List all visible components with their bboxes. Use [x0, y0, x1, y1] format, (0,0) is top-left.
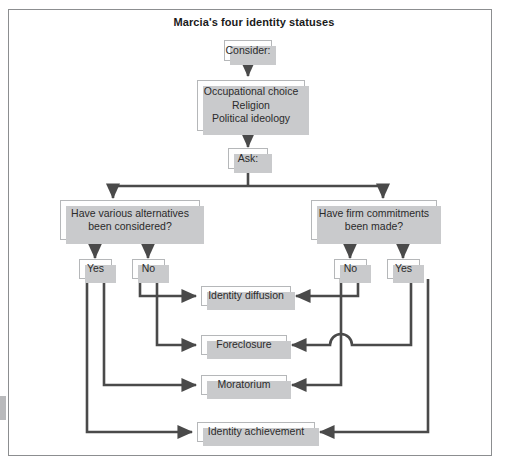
figure-title: Marcia's four identity statuses [0, 16, 508, 28]
node-commitment-no: No [334, 259, 367, 279]
node-outcome-identity-diffusion: Identity diffusion [201, 286, 291, 306]
node-exploration-yes: Yes [79, 259, 112, 279]
node-question-commitment: Have firm commitments been made? [311, 200, 437, 240]
node-ask: Ask: [228, 148, 268, 169]
node-domains: Occupational choice Religion Political i… [197, 80, 305, 131]
node-question-exploration: Have various alternatives been considere… [60, 200, 200, 240]
node-outcome-moratorium-label: Moratorium [212, 378, 275, 392]
scan-edge-artifact [0, 396, 6, 420]
node-exploration-yes-label: Yes [82, 262, 109, 276]
node-commitment-yes: Yes [387, 259, 420, 279]
node-commitment-yes-label: Yes [390, 262, 417, 276]
node-consider-label: Consider: [221, 44, 276, 58]
node-exploration-no-label: No [137, 262, 160, 276]
node-outcome-identity-achievement-label: Identity achievement [203, 425, 309, 439]
node-outcome-foreclosure: Foreclosure [201, 335, 287, 355]
node-commitment-no-label: No [339, 262, 362, 276]
node-exploration-no: No [132, 259, 165, 279]
figure-root: Marcia's four identity statuses [0, 0, 508, 469]
node-outcome-foreclosure-label: Foreclosure [211, 338, 276, 352]
node-outcome-moratorium: Moratorium [201, 375, 287, 395]
node-question-commitment-label: Have firm commitments been made? [314, 207, 434, 234]
node-consider: Consider: [224, 40, 272, 61]
node-outcome-identity-achievement: Identity achievement [197, 422, 315, 442]
node-ask-label: Ask: [233, 152, 263, 166]
node-question-exploration-label: Have various alternatives been considere… [66, 207, 194, 234]
node-outcome-identity-diffusion-label: Identity diffusion [203, 289, 289, 303]
node-domains-label: Occupational choice Religion Political i… [199, 85, 304, 126]
